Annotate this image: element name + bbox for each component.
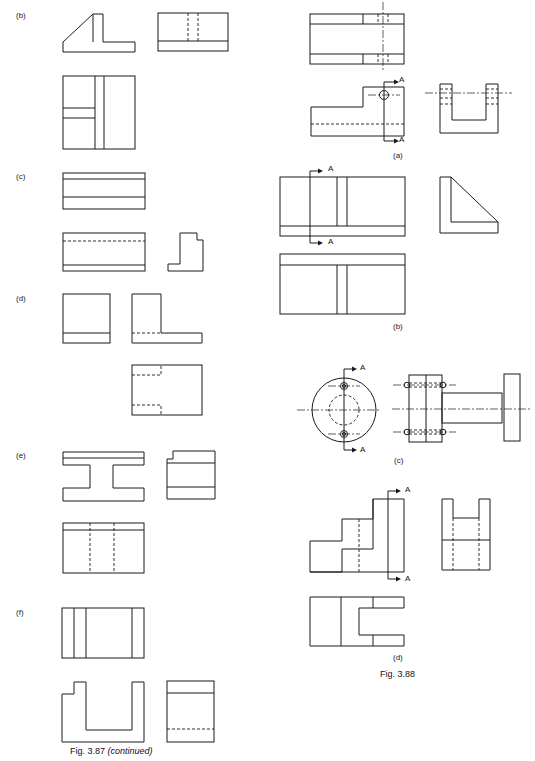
fig388-part-a-label: (a): [393, 151, 403, 160]
fig387-part-c-label: (c): [16, 172, 25, 181]
fig387-c-plan-view: [63, 173, 145, 209]
fig388-d-section-mark-bottom: A: [405, 574, 410, 583]
fig387-e-plan-view: [63, 523, 144, 573]
fig387-b-front-view: [63, 14, 135, 52]
fig387-e-front-view: [63, 452, 144, 501]
fig387-caption-suffix: (continued): [108, 746, 153, 756]
fig387-f-plan-view: [62, 608, 144, 658]
fig388-a-side-view: [425, 84, 512, 133]
fig388-d-front-view: [310, 489, 404, 582]
fig388-b-side-view: [440, 177, 498, 233]
fig388-c-side-view: [392, 374, 530, 442]
fig387-d-plan-view: [132, 365, 202, 415]
technical-drawing-canvas: [0, 0, 535, 761]
fig387-d-side-view: [132, 294, 202, 343]
fig387-caption: Fig. 3.87 (continued): [70, 746, 153, 756]
fig388-b-front-view: [280, 169, 405, 246]
fig387-f-side-view: [167, 681, 214, 742]
fig387-part-d-label: (d): [16, 294, 26, 303]
fig388-c-section-mark-top: A: [360, 363, 365, 372]
fig387-c-front-view: [63, 233, 145, 271]
fig388-part-d-label: (d): [393, 653, 403, 662]
fig388-caption: Fig. 3.88: [380, 669, 415, 679]
fig387-b-plan-view: [63, 76, 135, 149]
fig387-c-side-view: [168, 233, 203, 271]
fig387-part-f-label: (f): [16, 608, 24, 617]
fig388-b-section-mark-top: A: [328, 164, 333, 173]
fig388-d-plan-view: [310, 597, 404, 646]
fig387-e-side-view: [167, 451, 215, 499]
fig388-a-front-view: [311, 80, 404, 144]
fig387-f-front-view: [62, 682, 144, 742]
fig388-part-c-label: (c): [394, 456, 403, 465]
fig387-part-e-label: (e): [16, 451, 26, 460]
fig387-caption-title: Fig. 3.87: [70, 746, 105, 756]
fig388-a-section-mark-top: A: [399, 75, 404, 84]
fig388-part-b-label: (b): [393, 322, 403, 331]
fig388-d-side-view: [442, 499, 490, 570]
fig388-c-end-view: [297, 367, 380, 453]
fig388-b-section-mark-bottom: A: [328, 237, 333, 246]
fig388-b-plan-view: [280, 254, 405, 314]
fig388-a-section-mark-bottom: A: [399, 135, 404, 144]
fig388-a-plan-view: [310, 2, 404, 72]
fig387-part-b-label: (b): [16, 11, 26, 20]
fig388-c-section-mark-bottom: A: [360, 445, 365, 454]
fig387-d-front-view: [63, 294, 110, 343]
fig387-b-side-view: [158, 13, 228, 51]
fig388-d-section-mark-top: A: [405, 485, 410, 494]
